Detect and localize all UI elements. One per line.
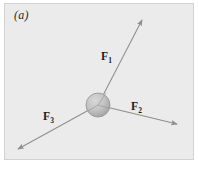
figure-container: (a) F1 F2 F3 [0,0,198,169]
force-label-f1: F1 [101,51,112,63]
force-label-f2-subscript: 2 [138,106,142,115]
particle-sphere [86,93,110,117]
vector-diagram-canvas [0,0,198,169]
force-label-f2-symbol: F [131,100,138,112]
vector-f3-arrow [18,105,98,149]
force-label-f3-subscript: 3 [50,116,54,125]
force-label-f1-symbol: F [101,50,108,62]
vector-f1-arrow [98,20,142,105]
force-label-f1-subscript: 1 [108,56,112,65]
force-label-f2: F2 [131,101,142,113]
panel-label: (a) [14,9,29,21]
force-label-f3: F3 [43,111,54,123]
force-label-f3-symbol: F [43,110,50,122]
